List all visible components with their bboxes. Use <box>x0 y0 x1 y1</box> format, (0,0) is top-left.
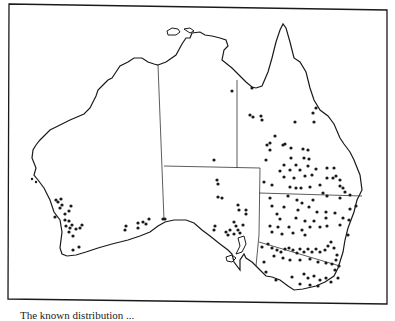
state-borders <box>158 65 362 266</box>
border-wa <box>158 65 164 220</box>
border-nt-sa <box>164 166 260 168</box>
border-sa-vic <box>256 235 259 266</box>
specimen-markers <box>31 86 358 287</box>
tiwi-islands <box>167 28 194 35</box>
coastline <box>32 24 362 290</box>
border-sa-nsw <box>259 168 260 235</box>
gulf-coast <box>236 236 246 254</box>
figure-caption: The known distribution ... <box>20 309 134 321</box>
kangaroo-island <box>226 255 236 262</box>
map-frame <box>8 4 387 304</box>
border-qld-nsw <box>259 193 362 196</box>
